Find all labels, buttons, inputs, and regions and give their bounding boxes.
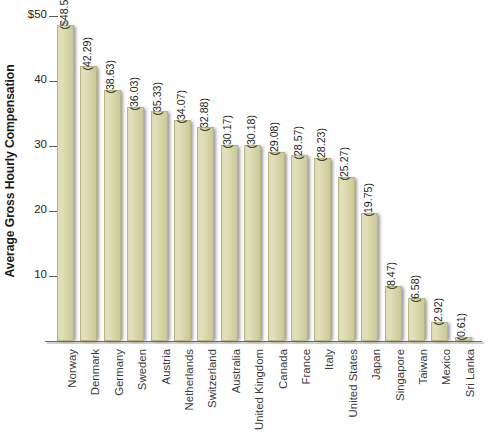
x-axis-category-label-text: Sweden [136,349,148,390]
bar-value-label: (8.47) [387,262,398,290]
bar-chart: Average Gross Hourly Compensation $50403… [0,0,490,448]
bar-value-label: (19.75) [363,183,374,217]
bar-value-label: (25.27) [340,147,351,181]
bar[interactable] [197,127,214,341]
bar-value-label: (28.57) [293,126,304,160]
x-axis-category-label-text: United States [347,349,359,417]
bar-slot[interactable]: (19.75) [361,213,378,341]
bar[interactable] [174,120,191,341]
y-axis-title-text: Average Gross Hourly Compensation [3,64,17,277]
bar-value-label: (42.29) [82,37,93,71]
bar[interactable] [385,286,402,341]
bar[interactable] [221,145,238,341]
bar-value-label: (36.03) [129,77,140,111]
bar-value-label: (35.33) [153,82,164,116]
x-axis-category-label-text: Germany [113,349,125,396]
bar-slot[interactable]: (34.07) [174,120,191,341]
x-axis-category-label-text: Sri Lanka [464,349,476,397]
x-axis-category-label-text: United Kingdom [253,349,265,430]
bar[interactable] [408,298,425,341]
x-axis-category-label-text: France [300,349,312,384]
bar-slot[interactable]: (6.58) [408,298,425,341]
bar-slot[interactable]: (38.63) [104,90,121,341]
y-axis-tick-label: 30 [34,138,47,150]
bar[interactable] [268,152,285,341]
x-axis-category-label-text: Canada [277,349,289,389]
bar-value-label: (38.63) [106,60,117,94]
x-axis-baseline [45,341,482,342]
bar-value-label: (0.61) [457,313,468,341]
bar[interactable] [80,66,97,341]
bar-slot[interactable]: (30.17) [221,145,238,341]
x-axis-category-label-text: Japan [370,349,382,380]
x-axis-category-label-text: Netherlands [183,349,195,410]
x-axis-category-label-text: Norway [66,349,78,388]
bar-slot[interactable]: (2.92) [431,322,448,341]
bar-slot[interactable]: (36.03) [127,107,144,341]
x-axis-category-label-text: Taiwan [417,349,429,384]
x-axis-category-label-text: Denmark [89,349,101,395]
bar[interactable] [338,177,355,341]
x-axis-baseline-shadow [47,342,484,344]
y-axis-tick-label: 20 [34,203,47,215]
bar-slot[interactable]: (28.23) [314,158,331,341]
bar-value-label: (30.18) [246,115,257,149]
x-axis-category-labels: NorwayDenmarkGermanySwedenAustriaNetherl… [57,346,482,446]
bar-slot[interactable]: (25.27) [338,177,355,341]
y-axis: $5040302010 [18,0,58,341]
bar[interactable] [314,158,331,341]
bar-slot[interactable]: (30.18) [244,145,261,341]
bar-slot[interactable]: (29.08) [268,152,285,341]
bar[interactable] [244,145,261,341]
bar[interactable] [361,213,378,341]
bar-slot[interactable]: (35.33) [151,111,168,341]
y-axis-tick-label: 40 [34,73,47,85]
bar-value-label: (32.88) [199,98,210,132]
y-axis-title: Average Gross Hourly Compensation [0,0,20,341]
x-axis-category-label-text: Italy [323,349,335,370]
plot-area: ($48.56)(42.29)(38.63)(36.03)(35.33)(34.… [57,0,482,341]
bar-value-label: (30.17) [223,115,234,149]
x-axis-category-label-text: Australia [230,349,242,393]
x-axis-category-label-text: Switzerland [206,349,218,408]
bar[interactable] [57,25,74,341]
bar[interactable] [151,111,168,341]
bar-slot[interactable]: (28.57) [291,155,308,341]
bar-value-label: (34.07) [176,90,187,124]
x-axis-category-label-text: Mexico [440,349,452,385]
bar-slot[interactable]: ($48.56) [57,25,74,341]
bar-value-label: (28.23) [316,128,327,162]
bar[interactable] [291,155,308,341]
y-axis-tick-label: 10 [34,268,47,280]
bar-value-label: (2.92) [433,298,444,326]
bar-value-label: ($48.56) [59,0,70,29]
bar-value-label: (6.58) [410,275,421,303]
x-axis-category-label-text: Austria [160,349,172,384]
y-axis-tick-label: $50 [28,8,47,20]
bar-slot[interactable]: (42.29) [80,66,97,341]
bar-slot[interactable]: (32.88) [197,127,214,341]
bar[interactable] [127,107,144,341]
bar-value-label: (29.08) [270,122,281,156]
bar[interactable] [104,90,121,341]
bar-slot[interactable]: (0.61) [455,337,472,341]
bar-slot[interactable]: (8.47) [385,286,402,341]
x-axis-category-label-text: Singapore [394,349,406,401]
